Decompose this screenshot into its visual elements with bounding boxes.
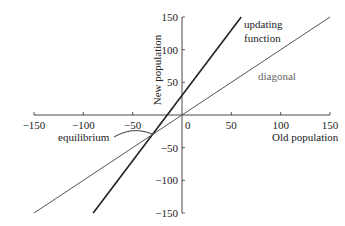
y-tick-label: −150 — [155, 207, 178, 219]
y-tick-label: −100 — [155, 174, 178, 186]
x-tick-label: 50 — [226, 119, 238, 131]
x-tick-label: −150 — [23, 119, 46, 131]
y-tick-label: 50 — [167, 76, 179, 88]
diagonal-label: diagonal — [258, 70, 296, 82]
y-axis-label: New population — [151, 34, 163, 105]
equilibrium-label: equilibrium — [58, 131, 110, 143]
y-tick-label: 150 — [162, 11, 179, 23]
x-tick-label: 100 — [272, 119, 289, 131]
x-tick-label: −100 — [72, 119, 95, 131]
y-tick-label: −50 — [161, 142, 179, 154]
chart: −150−100−50050100150−150−100−5050100150 … — [0, 0, 345, 226]
x-tick-label: 0 — [185, 119, 191, 131]
updating-function-label-1: updating — [244, 18, 283, 30]
updating-function-label-2: function — [244, 32, 281, 44]
x-tick-label: −50 — [124, 119, 142, 131]
y-tick-label: 100 — [162, 44, 179, 56]
x-axis-label: Old population — [272, 131, 339, 143]
x-tick-label: 150 — [322, 119, 339, 131]
equilibrium-arrow — [114, 131, 152, 137]
